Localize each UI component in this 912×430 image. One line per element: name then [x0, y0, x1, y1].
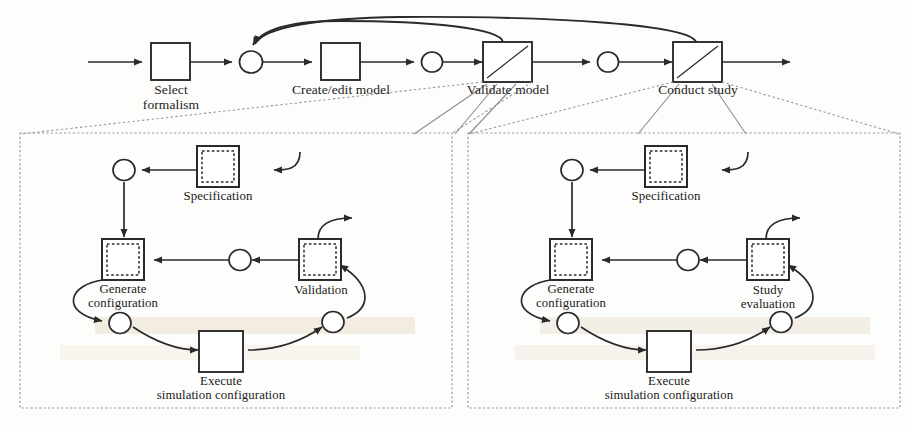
panel2-label-evaluation: Study evaluation	[712, 283, 824, 312]
place-after-validate	[598, 52, 619, 72]
panel2-place-results	[770, 312, 792, 333]
feedback-arc-validate-model	[253, 21, 503, 45]
panel2-node-evaluation	[747, 239, 789, 280]
panel2-node-specification	[645, 146, 687, 187]
panel1-place-config-ready	[109, 313, 131, 334]
panel1-node-execute-simulation	[199, 331, 243, 372]
label-create-edit-model: Create/edit model	[272, 82, 410, 97]
panel2-label-execute-simulation: Execute simulation configuration	[559, 374, 779, 403]
panel2-node-execute-simulation	[647, 331, 691, 372]
transition-create-edit-model	[321, 43, 360, 80]
panel2-label-generate-configuration: Generate configuration	[506, 282, 636, 311]
panel1-node-specification	[197, 146, 239, 187]
panel2-place-specification-out	[561, 160, 583, 181]
panel1-node-evaluation	[299, 239, 341, 280]
panel2-place-evaluation-out	[677, 250, 699, 271]
panel1-label-specification: Specification	[158, 189, 278, 203]
panel2-label-specification: Specification	[606, 189, 726, 203]
label-validate-model: Validate model	[440, 82, 576, 97]
panel1-place-results	[322, 312, 344, 333]
label-select-formalism: Select formalism	[121, 82, 221, 112]
feedback-arc-conduct-study	[255, 17, 696, 44]
panel2-place-config-ready	[557, 313, 579, 334]
panel1-place-evaluation-out	[229, 250, 251, 271]
diagram-vector-layer	[0, 0, 912, 430]
panel1-node-generate-configuration	[102, 239, 144, 280]
panel1-label-generate-configuration: Generate configuration	[58, 282, 188, 311]
place-after-create	[422, 52, 443, 72]
place-after-select	[240, 51, 263, 73]
label-conduct-study: Conduct study	[630, 82, 766, 97]
panel1-place-specification-out	[113, 160, 135, 181]
transition-select-formalism	[151, 43, 190, 80]
panel1-label-evaluation: Validation	[266, 283, 376, 297]
diagram-canvas: Select formalism Create/edit model Valid…	[0, 0, 912, 430]
panel2-node-generate-configuration	[550, 239, 592, 280]
panel1-label-execute-simulation: Execute simulation configuration	[111, 374, 331, 403]
